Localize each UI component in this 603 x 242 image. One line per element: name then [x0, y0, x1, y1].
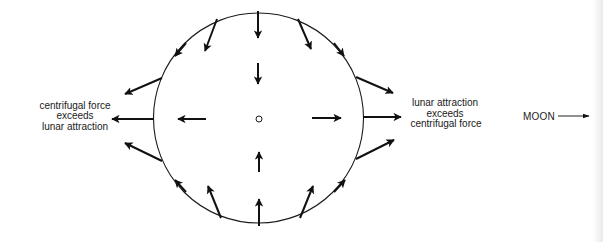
right-label: lunar attraction exceeds centrifugal for… [410, 97, 482, 129]
arrow-bottom-right-icon [300, 186, 313, 218]
left-label-line-1: centrifugal force [39, 100, 111, 111]
left-label: centrifugal force exceeds lunar attracti… [39, 100, 111, 132]
earth-center-marker [256, 116, 262, 122]
arrow-outward-lower-right-icon [356, 140, 394, 159]
arrow-tangent-upper-right-icon [334, 43, 344, 56]
arrow-tangent-lower-right-icon [334, 180, 345, 192]
scan-edge-shade [593, 0, 603, 242]
arrow-outward-upper-right-icon [356, 77, 393, 93]
arrow-tangent-upper-left-icon [175, 43, 186, 56]
tidal-force-diagram: centrifugal force exceeds lunar attracti… [0, 0, 603, 242]
right-label-line-3: centrifugal force [410, 118, 482, 129]
inner-arrows [178, 63, 341, 172]
left-label-line-2: exceeds [56, 110, 93, 121]
arrow-tangent-lower-left-icon [175, 180, 186, 192]
right-label-line-2: exceeds [426, 108, 463, 119]
left-label-line-3: lunar attraction [42, 121, 108, 132]
right-label-line-1: lunar attraction [412, 97, 478, 108]
moon-label: MOON [523, 111, 555, 122]
arrow-outward-lower-left-icon [125, 143, 162, 161]
moon-indicator: MOON [523, 111, 589, 122]
